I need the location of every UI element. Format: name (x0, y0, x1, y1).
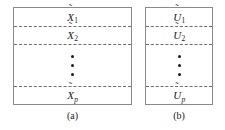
caption-panel-a: (a) (13, 110, 132, 121)
panel-a-vertical-ellipsis-icon (71, 55, 74, 76)
panel-a-region-2: ˜X2 (14, 26, 131, 44)
ellipsis-dot (178, 73, 181, 76)
tilde-accent-icon: ˜ (175, 4, 178, 14)
ellipsis-dot (71, 64, 74, 67)
panel-b-label-2: ˜U2 (173, 30, 185, 41)
panel-a-region-ellipsis (14, 44, 131, 86)
tilde-accent-icon: ˜ (69, 22, 72, 32)
figure-container: ˜X1 ˜X2 ˜Xp ˜U1 ˜U2 (0, 0, 225, 130)
panel-b-label-p-subscript: p (181, 95, 185, 104)
panel-a-block: ˜X1 ˜X2 ˜Xp (13, 7, 132, 105)
ellipsis-dot (178, 55, 181, 58)
caption-panel-b: (b) (145, 110, 213, 121)
tilde-accent-icon: ˜ (69, 82, 72, 92)
panel-b-label-2-subscript: 2 (181, 34, 185, 43)
panel-a-label-p: ˜Xp (67, 90, 77, 101)
panel-a-region-p: ˜Xp (14, 86, 131, 105)
ellipsis-dot (178, 64, 181, 67)
tilde-accent-icon: ˜ (175, 22, 178, 32)
panel-b-block: ˜U1 ˜U2 ˜Up (145, 7, 213, 105)
tilde-accent-icon: ˜ (69, 4, 72, 14)
panel-a-label-2: ˜X2 (67, 30, 77, 41)
panel-b-label-1-subscript: 1 (181, 16, 185, 25)
panel-a-label-2-subscript: 2 (74, 34, 78, 43)
panel-a-label-p-subscript: p (74, 95, 78, 104)
panel-b-region-2: ˜U2 (146, 26, 212, 44)
tilde-accent-icon: ˜ (175, 82, 178, 92)
panel-b-region-p: ˜Up (146, 86, 212, 105)
panel-b-label-p: ˜Up (173, 90, 185, 101)
panel-a-label-1-subscript: 1 (74, 16, 78, 25)
panel-b-vertical-ellipsis-icon (178, 55, 181, 76)
ellipsis-dot (71, 55, 74, 58)
panel-b-region-1: ˜U1 (146, 8, 212, 26)
panel-a-region-1: ˜X1 (14, 8, 131, 26)
ellipsis-dot (71, 73, 74, 76)
panel-b-region-ellipsis (146, 44, 212, 86)
